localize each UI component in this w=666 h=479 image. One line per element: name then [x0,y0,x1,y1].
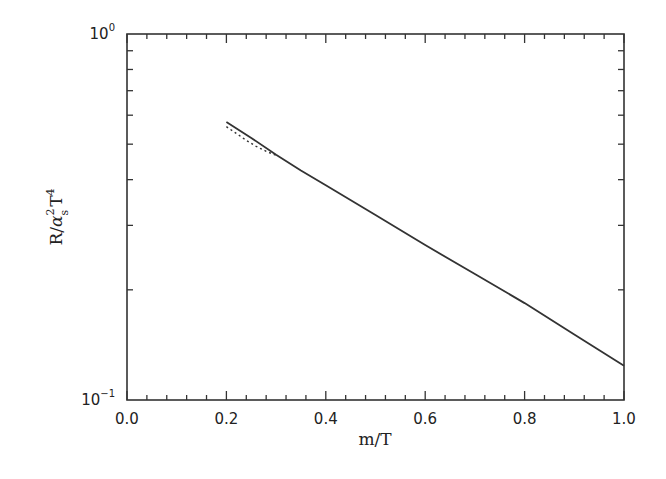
svg-text:R/α2sT4: R/α2sT4 [44,188,71,245]
plot-frame [127,34,624,400]
plot-border [127,34,624,400]
x-tick-label: 0.0 [115,410,139,428]
x-tick-label: 0.2 [214,410,238,428]
chart: 0.00.20.40.60.81.0 10010−1 m/T R/α2sT4 [0,0,666,479]
x-tick-label: 1.0 [612,410,636,428]
data-lines [226,122,624,366]
axis-ticks [127,34,624,400]
x-axis-label: m/T [358,429,392,449]
y-tick-labels: 10010−1 [81,22,115,409]
x-tick-label: 0.6 [413,410,437,428]
x-tick-labels: 0.00.20.40.60.81.0 [115,410,636,428]
x-tick-label: 0.4 [314,410,338,428]
y-tick-label: 10−1 [81,388,115,409]
series-dotted [226,127,276,156]
y-tick-label: 100 [90,22,115,43]
y-axis-label: R/α2sT4 [44,188,71,245]
series-solid [226,122,624,366]
x-tick-label: 0.8 [513,410,537,428]
